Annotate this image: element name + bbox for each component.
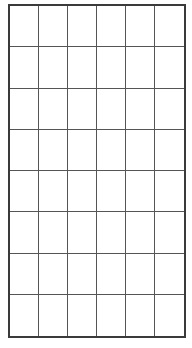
grid-cell: [10, 89, 39, 130]
grid-cell: [68, 89, 97, 130]
grid-cell: [10, 212, 39, 253]
grid-cell: [10, 47, 39, 88]
grid-cell: [97, 171, 126, 212]
grid-cell: [10, 254, 39, 295]
grid-cell: [68, 171, 97, 212]
grid-cell: [155, 171, 184, 212]
grid-cell: [39, 254, 68, 295]
grid-cell: [97, 130, 126, 171]
grid-cell: [126, 212, 155, 253]
grid-cell: [126, 47, 155, 88]
grid-cell: [39, 130, 68, 171]
grid-cell: [126, 6, 155, 47]
grid-cell: [39, 89, 68, 130]
grid-cell: [97, 47, 126, 88]
grid-cell: [97, 254, 126, 295]
grid-cell: [97, 212, 126, 253]
grid-cell: [126, 89, 155, 130]
grid-cell: [39, 6, 68, 47]
grid-cell: [68, 212, 97, 253]
grid-cell: [155, 295, 184, 336]
grid-cell: [155, 47, 184, 88]
empty-grid: [8, 4, 186, 338]
grid-cell: [10, 171, 39, 212]
grid-cell: [126, 171, 155, 212]
grid-cell: [155, 254, 184, 295]
grid-cell: [39, 171, 68, 212]
grid-cell: [10, 130, 39, 171]
grid-cell: [126, 295, 155, 336]
grid-cell: [68, 130, 97, 171]
grid-cell: [155, 212, 184, 253]
grid-cell: [10, 295, 39, 336]
grid-cell: [68, 47, 97, 88]
grid-cell: [155, 6, 184, 47]
grid-cell: [97, 6, 126, 47]
grid-cell: [155, 130, 184, 171]
grid-cell: [97, 295, 126, 336]
grid-cell: [126, 130, 155, 171]
grid-cell: [68, 254, 97, 295]
grid-cell: [10, 6, 39, 47]
grid-cell: [39, 47, 68, 88]
grid-cell: [155, 89, 184, 130]
grid-cell: [68, 295, 97, 336]
grid-cell: [68, 6, 97, 47]
grid-cell: [39, 295, 68, 336]
grid-cell: [39, 212, 68, 253]
grid-cell: [97, 89, 126, 130]
grid-cell: [126, 254, 155, 295]
